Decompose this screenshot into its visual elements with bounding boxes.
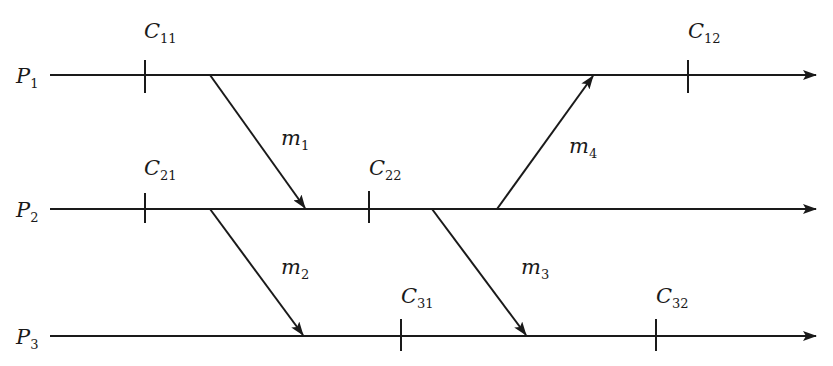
checkpoint-label-c12: C12 [688, 19, 721, 46]
message-label-m1: m1 [281, 126, 309, 153]
space-time-diagram: P1 P2 P3 C11 C12 C21 C22 C31 C32 m1 m2 m… [0, 0, 833, 366]
checkpoint-label-c31: C31 [401, 284, 434, 311]
process-label-p1: P1 [15, 64, 38, 91]
checkpoint-label-c32: C32 [656, 284, 689, 311]
message-label-m4: m4 [569, 134, 597, 161]
message-arrow-m3 [432, 209, 526, 335]
process-label-p3: P3 [15, 325, 38, 352]
message-label-m2: m2 [281, 255, 309, 282]
message-label-m3: m3 [521, 255, 549, 282]
process-label-p2: P2 [15, 198, 38, 225]
checkpoint-label-c11: C11 [144, 19, 177, 46]
checkpoint-label-c22: C22 [369, 156, 402, 183]
checkpoint-label-c21: C21 [144, 156, 177, 183]
